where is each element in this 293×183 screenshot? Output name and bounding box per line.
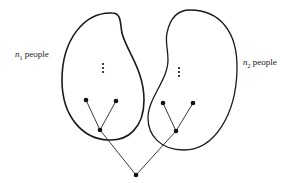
- group-2-label: n2 people: [243, 57, 277, 69]
- group-1-label: n1 people: [15, 49, 49, 61]
- group-1-suffix: people: [23, 49, 49, 59]
- group-2-suffix: people: [251, 57, 277, 67]
- tree-nodes: [84, 98, 196, 178]
- leaf-node: [84, 98, 89, 103]
- junction-node: [98, 128, 103, 133]
- group-2-tree: [136, 103, 193, 175]
- leaf-node: [114, 99, 119, 104]
- group-1-boundary: [62, 13, 144, 140]
- leaf-node: [191, 101, 196, 106]
- leaf-node: [161, 101, 166, 106]
- ellipsis-dots: [102, 63, 180, 77]
- diagram-canvas: [0, 0, 293, 183]
- junction-node: [174, 129, 179, 134]
- root-node: [134, 173, 139, 178]
- group-2-boundary: [148, 10, 237, 150]
